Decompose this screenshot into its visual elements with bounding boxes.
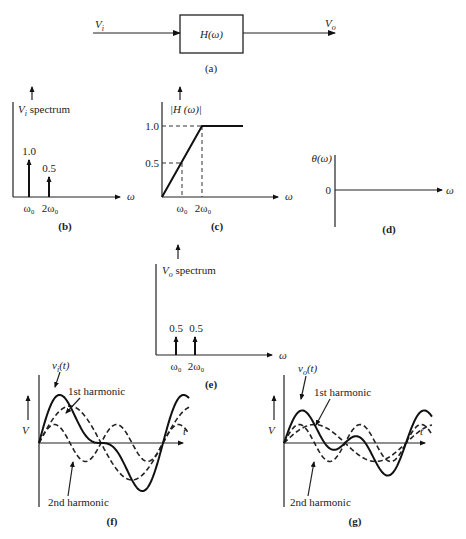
second-harmonic-pointer: [68, 462, 73, 496]
input-label: Vi: [95, 18, 104, 33]
output-label: Vo: [325, 17, 336, 32]
caption-a: (a): [205, 62, 218, 75]
first-harmonic-label: 1st harmonic: [68, 385, 125, 397]
impulse-label-1: 1.0: [22, 145, 36, 157]
first-harmonic-pointer: [316, 399, 330, 425]
tick-w0: ω₀: [170, 360, 181, 372]
second-harmonic-pointer: [308, 462, 314, 496]
panel-a-block-diagram: Vi H(ω) Vo (a): [93, 15, 336, 75]
omega-axis-label: ω: [279, 349, 287, 361]
impulse-label-2: 0.5: [42, 162, 56, 174]
omega-axis-label: ω: [446, 184, 454, 196]
tick-w0: ω₀: [23, 202, 34, 214]
v-axis-label: V: [22, 424, 30, 436]
panel-e-vo-spectrum: Vo spectrum 0.5 0.5 ω ω₀ 2ω₀ (e): [156, 245, 287, 391]
impulse-label-1: 0.5: [169, 322, 183, 334]
tick-2w0: 2ω₀: [42, 202, 59, 214]
first-harmonic-label: 1st harmonic: [314, 386, 371, 398]
figure-canvas: Vi H(ω) Vo (a) Vi spectrum 1.0 0.5 ω ω₀ …: [0, 0, 466, 539]
t-axis-label: t: [420, 425, 424, 437]
vi-label: vi(t): [52, 359, 70, 374]
caption-f: (f): [107, 515, 118, 528]
second-harmonic-label: 2nd harmonic: [48, 496, 109, 508]
tick-w0: ω₀: [176, 202, 187, 214]
omega-axis-label: ω: [285, 190, 293, 202]
caption-e: (e): [205, 378, 218, 391]
omega-axis-label: ω: [127, 190, 135, 202]
vi-pointer: [55, 372, 60, 387]
phase-title: θ(ω): [312, 152, 333, 165]
panel-f-input-waveform: V t vi(t) 1st harmonic 2nd harmonic (f): [22, 359, 189, 528]
y-tick-0.5: 0.5: [145, 157, 159, 169]
y-tick-1.0: 1.0: [145, 120, 159, 132]
v-axis-label: V: [268, 424, 276, 436]
block-label: H(ω): [199, 28, 223, 41]
impulse-label-2: 0.5: [189, 322, 203, 334]
caption-d: (d): [382, 223, 396, 236]
panel-d-phase-response: θ(ω) 0 ω (d): [312, 152, 455, 236]
caption-g: (g): [349, 515, 362, 528]
caption-c: (c): [211, 220, 224, 233]
second-harmonic-label: 2nd harmonic: [290, 496, 351, 508]
vo-pointer: [301, 376, 306, 399]
panel-g-output-waveform: V t vo(t) 1st harmonic 2nd harmonic (g): [268, 362, 432, 528]
spectrum-title: Vi spectrum: [18, 103, 70, 118]
spectrum-title: Vo spectrum: [162, 264, 216, 279]
zero-label: 0: [326, 184, 332, 196]
magnitude-title: |H (ω)|: [170, 103, 202, 116]
caption-b: (b): [58, 220, 72, 233]
panel-c-magnitude-response: |H (ω)| 1.0 0.5 ω ω₀ 2ω₀ (c): [145, 87, 293, 233]
tick-2w0: 2ω₀: [188, 360, 205, 372]
panel-b-vi-spectrum: Vi spectrum 1.0 0.5 ω ω₀ 2ω₀ (b): [13, 87, 135, 233]
vo-label: vo(t): [298, 362, 318, 377]
tick-2w0: 2ω₀: [195, 202, 212, 214]
